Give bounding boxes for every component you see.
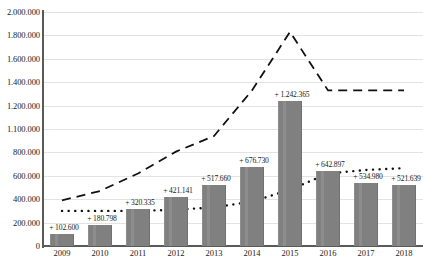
y-axis-tick-label: 400.000	[0, 194, 40, 204]
y-axis-tick-label: 200.000	[0, 218, 40, 228]
y-axis-tick-label: 1.100.000	[0, 124, 40, 134]
x-axis-tick-labels: 2009201020112012201320142015201620172018	[43, 248, 423, 261]
bar-value-label: + 102.600	[49, 223, 79, 232]
x-axis-tick-label: 2009	[54, 248, 71, 258]
bar-value-label: + 421.141	[163, 186, 193, 195]
bar-chart: 2.000.0001.800.0001.600.0001.400.0001.20…	[0, 0, 423, 261]
bar-value-label: + 180.798	[87, 214, 117, 223]
bar-value-label: + 320.335	[125, 198, 155, 207]
x-axis-tick-label: 2012	[168, 248, 185, 258]
x-axis-tick-label: 2015	[282, 248, 299, 258]
x-axis-tick-label: 2010	[92, 248, 109, 258]
y-axis-tick-label: 2.000.000	[0, 7, 40, 17]
bar-value-label: + 676.730	[239, 156, 269, 165]
bar-value-label: + 521.639	[391, 174, 421, 183]
y-axis-tick-label: 0	[0, 241, 40, 251]
y-axis-tick-label: 600.000	[0, 171, 40, 181]
bar-value-label: + 517.660	[201, 174, 231, 183]
x-axis-tick-label: 2014	[244, 248, 261, 258]
y-axis-tick-label: 1.400.000	[0, 77, 40, 87]
x-axis-tick-label: 2011	[130, 248, 147, 258]
x-axis-tick-label: 2018	[396, 248, 413, 258]
bar-value-label: + 534.980	[353, 172, 383, 181]
y-axis-tick-label: 1.800.000	[0, 30, 40, 40]
y-axis-tick-labels: 2.000.0001.800.0001.600.0001.400.0001.20…	[0, 0, 40, 261]
x-axis-tick-label: 2013	[206, 248, 223, 258]
y-axis-tick-label: 1.200.000	[0, 101, 40, 111]
bar-value-label: + 642.897	[315, 160, 345, 169]
y-axis-tick-label: 800.000	[0, 147, 40, 157]
bar-value-label: + 1.242.365	[275, 90, 310, 99]
chart-data-labels: + 102.600+ 180.798+ 320.335+ 421.141+ 51…	[43, 12, 423, 246]
y-axis-tick-label: 1.600.000	[0, 54, 40, 64]
x-axis-tick-label: 2016	[320, 248, 337, 258]
x-axis-tick-label: 2017	[358, 248, 375, 258]
